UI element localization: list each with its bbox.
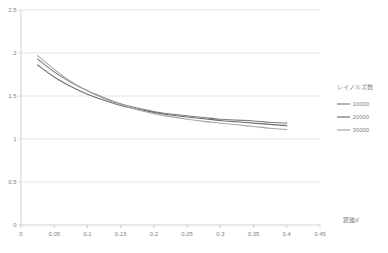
legend-label-30000[interactable]: 30000 — [353, 127, 370, 133]
x-tick-label: 0.35 — [248, 231, 260, 237]
y-tick-label: 1.5 — [8, 93, 17, 99]
x-tick-label: 0.25 — [181, 231, 193, 237]
x-tick-group — [21, 225, 320, 228]
legend: レイノルズ数 100002000030000 — [337, 83, 373, 133]
line-chart: 00.511.522.5 00.050.10.150.20.250.30.350… — [0, 0, 388, 253]
legend-label-20000[interactable]: 20000 — [353, 114, 370, 120]
series-line-30000 — [38, 56, 287, 130]
x-tick-label: 0.15 — [115, 231, 127, 237]
x-tick-label: 0.4 — [283, 231, 292, 237]
gridlines-group — [21, 10, 320, 182]
y-tick-label-group: 00.511.522.5 — [8, 7, 21, 228]
axes-group — [21, 10, 320, 225]
x-tick-label: 0.45 — [314, 231, 326, 237]
x-tick-label-group: 00.050.10.150.20.250.30.350.40.45 — [19, 231, 326, 237]
y-tick-label: 2 — [13, 50, 17, 56]
chart-container: 00.511.522.5 00.050.10.150.20.250.30.350… — [0, 0, 388, 253]
legend-label-10000[interactable]: 10000 — [353, 101, 370, 107]
y-tick-label: 0.5 — [8, 179, 17, 185]
x-tick-label: 0 — [19, 231, 23, 237]
y-tick-label: 0 — [13, 222, 17, 228]
legend-title: レイノルズ数 — [337, 83, 373, 91]
y-tick-label: 2.5 — [8, 7, 17, 13]
series-line-20000 — [38, 65, 287, 126]
series-group — [38, 56, 287, 130]
x-tick-label: 0.3 — [216, 231, 225, 237]
x-axis-title: 距離d' — [343, 216, 359, 224]
x-tick-label: 0.1 — [83, 231, 92, 237]
x-tick-label: 0.2 — [150, 231, 159, 237]
x-tick-label: 0.05 — [48, 231, 60, 237]
y-tick-label: 1 — [13, 136, 17, 142]
